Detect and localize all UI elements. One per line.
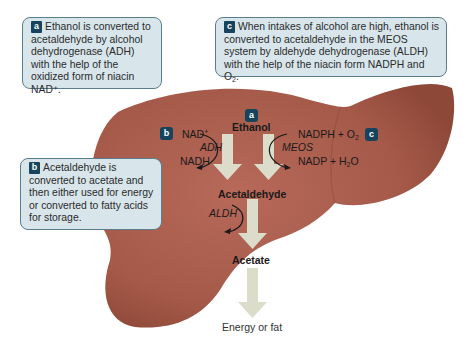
marker-b: b xyxy=(160,127,173,140)
badge-b: b xyxy=(29,162,40,174)
marker-c: c xyxy=(365,128,378,141)
label-nadp-h2o: NADP + H2O xyxy=(298,155,359,167)
note-b-text: Acetaldehyde is converted to acetate and… xyxy=(29,162,153,223)
badge-c: c xyxy=(224,21,235,33)
label-output: Energy or fat xyxy=(222,321,282,333)
badge-a: a xyxy=(31,21,42,33)
label-nadh: NADH xyxy=(180,155,210,167)
label-acetaldehyde: Acetaldehyde xyxy=(218,188,286,200)
label-adh: ADH xyxy=(200,141,222,153)
label-nad: NAD+ xyxy=(182,128,208,140)
note-a-text: Ethanol is converted to acetaldehyde by … xyxy=(31,21,151,95)
note-c-text: When intakes of alcohol are high, ethano… xyxy=(224,21,439,82)
note-b: bAcetaldehyde is converted to acetate an… xyxy=(20,158,162,230)
note-c: cWhen intakes of alcohol are high, ethan… xyxy=(215,17,447,77)
label-meos: MEOS xyxy=(282,141,313,153)
label-nadph-o2: NADPH + O2 xyxy=(298,128,359,140)
label-ethanol: Ethanol xyxy=(232,121,271,133)
label-aldh: ALDH xyxy=(209,207,237,219)
label-acetate: Acetate xyxy=(232,254,270,266)
note-a: aEthanol is converted to acetaldehyde by… xyxy=(22,17,162,89)
